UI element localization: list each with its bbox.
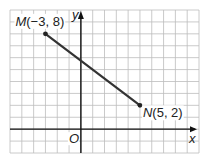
point-m-label: M(−3, 8) (15, 14, 64, 29)
coordinate-plane: x y O M(−3, 8) N(5, 2) (0, 0, 207, 168)
point-m (43, 31, 48, 36)
origin-label: O (69, 131, 79, 146)
point-m-coords: (−3, 8) (26, 14, 64, 29)
y-axis-arrow-icon (78, 11, 84, 19)
point-n (138, 103, 143, 108)
grid (10, 10, 199, 153)
point-n-label: N(5, 2) (143, 105, 183, 120)
point-m-name: M (15, 14, 26, 29)
y-axis-label: y (71, 7, 80, 22)
x-axis-label: x (188, 131, 196, 146)
point-n-coords: (5, 2) (152, 105, 182, 120)
